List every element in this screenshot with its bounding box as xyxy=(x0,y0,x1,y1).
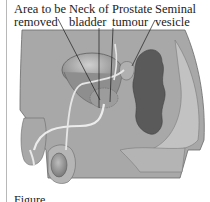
anatomy-diagram xyxy=(0,0,210,202)
figure-caption: Figure ... xyxy=(14,194,57,202)
rectum xyxy=(133,50,165,135)
testis xyxy=(51,153,67,177)
